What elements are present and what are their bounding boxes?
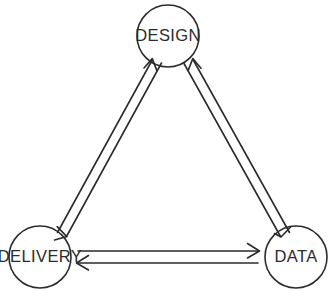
edge-delivery-data bbox=[77, 244, 260, 271]
edge-delivery-design-line-up bbox=[58, 60, 153, 233]
node-delivery-label: DELIVERY bbox=[0, 247, 82, 265]
edge-design-data-line-up bbox=[193, 60, 290, 233]
diagram-canvas: DESIGN DELIVERY DATA bbox=[0, 0, 328, 302]
node-design[interactable]: DESIGN bbox=[135, 5, 201, 67]
cycle-diagram: DESIGN DELIVERY DATA bbox=[0, 0, 328, 302]
edge-delivery-design bbox=[55, 59, 162, 240]
edge-delivery-design-line-down bbox=[67, 63, 162, 237]
edge-design-data bbox=[184, 59, 291, 237]
node-delivery[interactable]: DELIVERY bbox=[0, 226, 82, 288]
node-data-label: DATA bbox=[274, 247, 317, 265]
node-data[interactable]: DATA bbox=[265, 226, 327, 288]
edge-design-data-line-down bbox=[184, 64, 281, 237]
node-design-label: DESIGN bbox=[135, 26, 201, 44]
arrowhead-into-design-right bbox=[188, 59, 201, 71]
